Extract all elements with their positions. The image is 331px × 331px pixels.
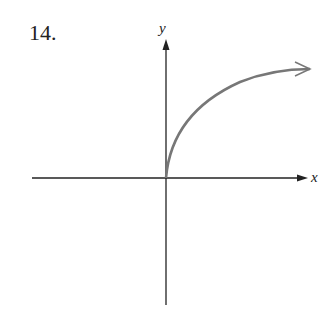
graph	[0, 0, 331, 331]
curve	[166, 62, 310, 178]
x-axis	[32, 175, 308, 182]
